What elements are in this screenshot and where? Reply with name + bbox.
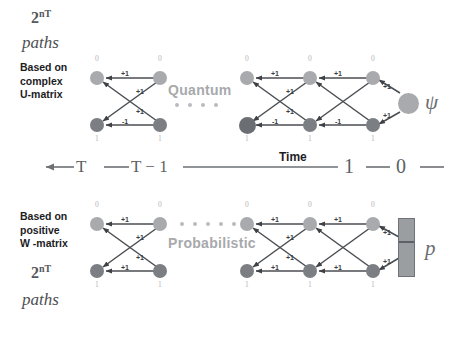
quantum-ellipsis — [175, 103, 218, 107]
time-axis-line — [46, 164, 444, 171]
state-label-top-p4: 0 — [308, 200, 312, 209]
quantum-node-t5-state0 — [366, 71, 380, 85]
state-label-top-q1: 0 — [95, 54, 99, 63]
quantum-final-state-node — [398, 93, 419, 114]
probability-bar-divider — [399, 241, 414, 243]
edges-overlay — [0, 0, 450, 343]
state-label-bottom-p3: 1 — [245, 280, 249, 289]
quantum-amp-bottom-1: -1 — [122, 118, 128, 125]
p-symbol: p — [425, 236, 436, 261]
quantum-amp-top-3: +1 — [334, 70, 342, 77]
paths-word-bottom: paths — [22, 290, 59, 310]
quantum-node-t4-state0 — [303, 71, 317, 85]
quantum-caption: Based on complex U-matrix — [20, 61, 67, 102]
time-tick-1: 1 — [344, 155, 354, 178]
quantum-node-t3-state0 — [240, 71, 254, 85]
ellipsis-dot — [175, 103, 179, 107]
probabilistic-amp-top-2: +1 — [271, 216, 279, 223]
probabilistic-amp-diag-lower-1: +1 — [136, 254, 144, 261]
ellipsis-dot — [188, 103, 192, 107]
probabilistic-node-t2-state0 — [153, 217, 167, 231]
probabilistic-amp-bottom-1: +1 — [121, 264, 129, 271]
quantum-amp-top-2: +1 — [271, 70, 279, 77]
probabilistic-node-t3-state0 — [240, 217, 254, 231]
state-label-top-q5: 0 — [371, 54, 375, 63]
probabilistic-amp-bottom-2: +1 — [271, 264, 279, 271]
probabilistic-amp-bottom-3: +1 — [334, 264, 342, 271]
probabilistic-amp-diag-upper-1: +1 — [136, 234, 144, 241]
paths-count-bottom-base: 2 — [31, 264, 39, 281]
probabilistic-amp-top-3: +1 — [334, 216, 342, 223]
state-label-bottom-q4: 1 — [308, 134, 312, 143]
state-label-bottom-p5: 1 — [371, 280, 375, 289]
quantum-node-t3-state1 — [239, 117, 256, 134]
paths-count-bottom-exponent: nT — [39, 263, 51, 274]
time-axis-label: Time — [279, 150, 307, 164]
figure-canvas: 2nT paths Based on complex U-matrix 0 0 … — [0, 0, 450, 343]
quantum-amp-collapse-1: +1 — [383, 83, 391, 90]
quantum-amp-diag-lower-2: +1 — [286, 108, 294, 115]
ellipsis-dot — [214, 103, 218, 107]
quantum-caption-line3: U-matrix — [20, 88, 67, 102]
time-tick-0: 0 — [396, 155, 406, 178]
paths-count-top-exponent: nT — [39, 8, 51, 19]
quantum-amp-bottom-2: -1 — [272, 118, 278, 125]
paths-count-bottom: 2nT — [31, 263, 51, 282]
probabilistic-amp-collapse-2: +1 — [383, 258, 391, 265]
quantum-node-t2-state0 — [153, 71, 167, 85]
probabilistic-amp-top-1: +1 — [121, 216, 129, 223]
state-label-top-q4: 0 — [308, 54, 312, 63]
probabilistic-amp-collapse-1: +1 — [383, 229, 391, 236]
quantum-node-t1-state0 — [90, 71, 104, 85]
ellipsis-dot — [193, 222, 197, 226]
ellipsis-dot — [180, 222, 184, 226]
probabilistic-amp-diag-lower-2: +1 — [286, 254, 294, 261]
state-label-top-p2: 0 — [158, 200, 162, 209]
quantum-amp-diag-upper-2: +1 — [286, 88, 294, 95]
time-tick-T-minus-1: T − 1 — [131, 157, 168, 177]
probabilistic-caption-line3: W -matrix — [20, 237, 68, 251]
state-label-bottom-q5: 1 — [371, 134, 375, 143]
probabilistic-caption: Based on positive W -matrix — [20, 210, 68, 251]
state-label-top-q2: 0 — [158, 54, 162, 63]
quantum-node-t4-state1 — [303, 118, 317, 132]
probabilistic-node-t4-state0 — [303, 217, 317, 231]
probabilistic-node-t4-state1 — [303, 264, 317, 278]
state-label-top-q3: 0 — [245, 54, 249, 63]
quantum-caption-line2: complex — [20, 75, 67, 89]
state-label-bottom-p1: 1 — [95, 280, 99, 289]
quantum-amp-top-1: +1 — [121, 70, 129, 77]
state-label-bottom-p4: 1 — [308, 280, 312, 289]
state-label-top-p3: 0 — [245, 200, 249, 209]
probabilistic-node-t5-state1 — [366, 264, 380, 278]
ellipsis-dot — [232, 222, 236, 226]
probabilistic-amp-diag-upper-2: +1 — [286, 234, 294, 241]
probabilistic-node-t2-state1 — [153, 264, 167, 278]
ellipsis-dot — [206, 222, 210, 226]
probabilistic-node-t1-state0 — [90, 217, 104, 231]
psi-symbol: ψ — [425, 90, 438, 115]
paths-word-top: paths — [22, 33, 59, 53]
probabilistic-caption-line2: positive — [20, 224, 68, 238]
probabilistic-node-t1-state1 — [90, 264, 104, 278]
probabilistic-node-t5-state0 — [366, 217, 380, 231]
quantum-caption-line1: Based on — [20, 61, 67, 75]
quantum-node-t5-state1 — [366, 118, 380, 132]
time-tick-T: T — [76, 157, 86, 177]
quantum-label: Quantum — [168, 82, 232, 98]
quantum-amp-bottom-3: -1 — [335, 118, 341, 125]
quantum-amp-diag-lower-1: +1 — [136, 108, 144, 115]
probability-bar — [398, 218, 415, 277]
paths-count-top: 2nT — [31, 8, 51, 27]
state-label-bottom-q2: 1 — [158, 134, 162, 143]
state-label-top-p1: 0 — [95, 200, 99, 209]
quantum-amp-collapse-2: +1 — [383, 112, 391, 119]
quantum-amp-diag-upper-1: +1 — [136, 88, 144, 95]
probabilistic-node-t3-state1 — [240, 264, 254, 278]
quantum-node-t1-state1 — [90, 118, 104, 132]
state-label-bottom-p2: 1 — [158, 280, 162, 289]
probabilistic-label: Probabilistic — [168, 235, 256, 251]
state-label-top-p5: 0 — [371, 200, 375, 209]
state-label-bottom-q3: 1 — [245, 134, 249, 143]
quantum-node-t2-state1 — [153, 118, 167, 132]
